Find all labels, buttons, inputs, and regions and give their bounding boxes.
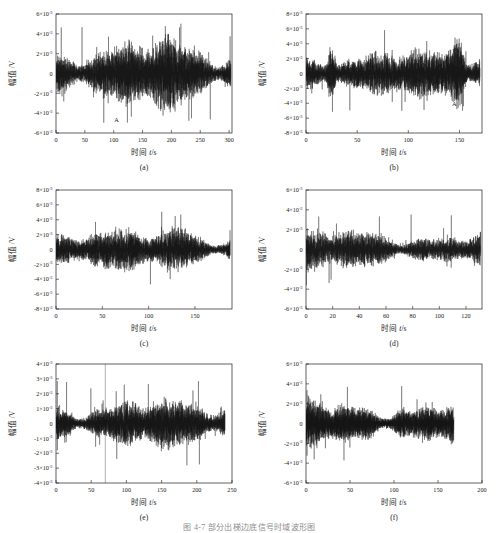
y-axis-ticks: -6×10-3-4×10-3-2×10-302×10-34×10-36×10-3 (34, 10, 59, 136)
signal-trace (56, 24, 231, 123)
y-tick-label: 2×10-3 (36, 231, 52, 238)
x-tick-label: 100 (404, 136, 413, 143)
y-tick-label: -2×10-3 (284, 265, 302, 272)
y-tick-label: 6×10-3 (286, 186, 302, 193)
x-axis-ticks: 050100150200250300 (54, 130, 233, 143)
subplot-d: -6×10-3-4×10-3-2×10-302×10-34×10-36×10-3… (250, 178, 499, 354)
subplot-label: (c) (140, 339, 149, 348)
subplot-c: -8×10-3-6×10-3-4×10-3-2×10-302×10-34×10-… (0, 178, 249, 354)
x-tick-label: 60 (383, 312, 389, 319)
y-tick-label: 0 (49, 246, 52, 253)
subplot-label: (a) (140, 163, 149, 172)
x-axis-ticks: 050100150200 (304, 480, 486, 493)
x-tick-label: 0 (54, 136, 57, 143)
x-tick-label: 20 (330, 312, 336, 319)
y-tick-label: -4×10-3 (34, 275, 52, 282)
y-tick-label: -2×10-3 (34, 89, 52, 96)
x-tick-label: 0 (54, 312, 57, 319)
subplot-a: -6×10-3-4×10-3-2×10-302×10-34×10-36×10-3… (0, 2, 249, 178)
x-tick-label: 100 (435, 312, 444, 319)
y-axis-ticks: -6×10-3-4×10-3-2×10-302×10-34×10-36×10-3 (284, 186, 309, 312)
subplot-b: -8×10-3-6×10-3-4×10-3-2×10-302×10-34×10-… (250, 2, 499, 178)
x-tick-label: 150 (138, 136, 147, 143)
x-tick-label: 300 (224, 136, 233, 143)
signal-trace (306, 386, 454, 460)
y-tick-label: -8×10-3 (284, 129, 302, 136)
x-axis-label: 时间 t/s (381, 497, 406, 507)
x-axis-label: 时间 t/s (381, 323, 406, 333)
y-tick-label: -2×10-3 (284, 439, 302, 446)
figure-caption: 图 4-7 部分出梯边底信号时域波形图 (0, 521, 499, 532)
y-tick-label: 4×10-3 (36, 216, 52, 223)
y-axis-label: 幅值 /V (257, 236, 267, 262)
x-tick-label: 150 (433, 486, 442, 493)
x-tick-label: 150 (455, 136, 464, 143)
y-tick-label: 6×10-3 (286, 360, 302, 367)
x-tick-label: 100 (122, 486, 131, 493)
y-tick-label: -2×10-3 (34, 260, 52, 267)
x-tick-label: 0 (304, 312, 307, 319)
x-tick-label: 150 (190, 312, 199, 319)
y-tick-label: -4×10-3 (34, 479, 52, 486)
y-tick-label: 0 (299, 246, 302, 253)
x-tick-label: 0 (54, 486, 57, 493)
signal-trace (306, 215, 481, 286)
y-tick-label: 4×10-3 (36, 30, 52, 37)
y-tick-label: 6×10-3 (286, 25, 302, 32)
x-axis-ticks: 050100150200250 (54, 480, 236, 493)
y-tick-label: -6×10-3 (34, 129, 52, 136)
y-tick-label: 8×10-3 (286, 10, 302, 17)
y-tick-label: -6×10-3 (284, 479, 302, 486)
subplot-f: -6×10-3-4×10-3-2×10-302×10-34×10-36×10-3… (250, 352, 499, 528)
y-tick-label: -4×10-3 (284, 99, 302, 106)
x-tick-label: 200 (477, 486, 486, 493)
y-axis-label: 幅值 /V (7, 410, 17, 436)
y-tick-label: -2×10-3 (284, 84, 302, 91)
y-tick-label: 2×10-3 (286, 226, 302, 233)
y-tick-label: 4×10-3 (286, 206, 302, 213)
y-axis-ticks: -8×10-3-6×10-3-4×10-3-2×10-302×10-34×10-… (284, 10, 309, 136)
figure-container: -6×10-3-4×10-3-2×10-302×10-34×10-36×10-3… (0, 0, 499, 533)
y-tick-label: -4×10-3 (284, 285, 302, 292)
y-tick-label: -4×10-3 (34, 109, 52, 116)
annotation-a: A (114, 116, 119, 123)
x-tick-label: 80 (410, 312, 416, 319)
x-axis-ticks: 050100150 (54, 306, 199, 319)
y-axis-ticks: -4×10-3-3×10-3-2×10-3-1×10-301×10-32×10-… (34, 360, 59, 486)
y-tick-label: 0 (49, 420, 52, 427)
x-tick-label: 50 (82, 136, 88, 143)
y-tick-label: 1×10-3 (36, 405, 52, 412)
x-axis-label: 时间 t/s (131, 497, 156, 507)
y-tick-label: 2×10-3 (286, 55, 302, 62)
x-tick-label: 50 (347, 486, 353, 493)
y-tick-label: 4×10-3 (286, 40, 302, 47)
subplot-e: -4×10-3-3×10-3-2×10-3-1×10-301×10-32×10-… (0, 352, 249, 528)
x-tick-label: 0 (304, 136, 307, 143)
y-tick-label: 2×10-3 (36, 390, 52, 397)
y-tick-label: 4×10-3 (286, 380, 302, 387)
x-axis-label: 时间 t/s (131, 147, 156, 157)
x-tick-label: 100 (109, 136, 118, 143)
x-tick-label: 50 (99, 312, 105, 319)
y-tick-label: 0 (299, 70, 302, 77)
y-tick-label: 2×10-3 (286, 400, 302, 407)
x-tick-label: 50 (88, 486, 94, 493)
y-tick-label: -6×10-3 (284, 114, 302, 121)
y-tick-label: 4×10-3 (36, 360, 52, 367)
y-tick-label: -2×10-3 (34, 449, 52, 456)
subplot-label: (b) (390, 163, 399, 172)
subplot-label: (d) (390, 339, 399, 348)
x-axis-label: 时间 t/s (131, 323, 156, 333)
x-tick-label: 0 (304, 486, 307, 493)
annotation-a: A (452, 100, 457, 107)
y-tick-label: 6×10-3 (36, 10, 52, 17)
y-axis-ticks: -8×10-3-6×10-3-4×10-3-2×10-302×10-34×10-… (34, 186, 59, 312)
x-tick-label: 200 (167, 136, 176, 143)
x-axis-label: 时间 t/s (381, 147, 406, 157)
y-tick-label: -1×10-3 (34, 434, 52, 441)
x-axis-ticks: 020406080100120 (304, 306, 470, 319)
y-tick-label: -3×10-3 (34, 464, 52, 471)
y-axis-label: 幅值 /V (7, 60, 17, 86)
y-tick-label: 3×10-3 (36, 375, 52, 382)
y-axis-label: 幅值 /V (257, 410, 267, 436)
